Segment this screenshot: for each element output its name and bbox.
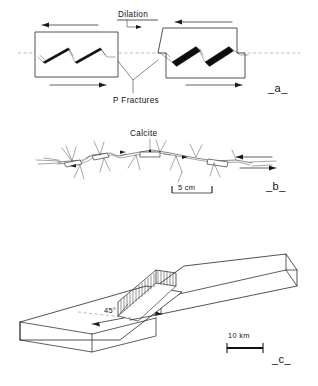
panel-b-scale-bar: 5 cm <box>172 183 212 193</box>
far-slab <box>148 254 297 314</box>
p-fractures-leader-v <box>118 60 158 80</box>
angle-label: 45° <box>104 306 116 315</box>
calcite-annotation: Calcite <box>130 129 158 152</box>
left-box-top-arrow <box>42 23 98 28</box>
right-shear-box-outline <box>158 28 245 78</box>
shear-couple-top-head <box>236 155 243 160</box>
calcite-leader-dot <box>149 150 151 152</box>
right-box-top-arrow-head <box>175 20 182 25</box>
splay-set-3 <box>94 141 104 155</box>
panel-a-left-box <box>35 23 118 88</box>
panel-a-right-box <box>158 20 248 88</box>
calcite-jog-4 <box>207 159 228 167</box>
right-box-top-arrow <box>175 20 232 25</box>
splay-set-1 <box>62 146 76 161</box>
fault-tail-4 <box>250 161 276 162</box>
left-box-top-arrow-head <box>42 23 49 28</box>
left-box-bottom-arrow <box>50 83 106 88</box>
figure-root: Dilation P Fractures _a_ <box>0 0 318 386</box>
splay-set-4 <box>100 158 110 172</box>
fault-tail-3 <box>44 158 58 160</box>
panel-b-scale-label: 5 cm <box>178 183 195 192</box>
panel-a-label: _a_ <box>267 82 288 94</box>
dilation-annotation: Dilation <box>117 10 158 29</box>
splay-set-7 <box>170 156 182 182</box>
panel-c: 45° 10 km _c_ <box>20 254 297 365</box>
left-shear-box-outline <box>35 32 118 77</box>
panel-b-label: _b_ <box>265 180 286 192</box>
slip-tick-2 <box>120 154 126 156</box>
p-fractures-label: P Fractures <box>113 96 159 105</box>
panel-b: Calcite 5 cm _b_ <box>36 129 286 193</box>
splay-set-5 <box>128 155 140 170</box>
fault-tail-1 <box>36 160 60 161</box>
shear-couple-bottom-head <box>269 166 276 171</box>
panel-c-scale-label: 10 km <box>228 331 250 340</box>
trace-arrow-1 <box>120 151 126 155</box>
p-fractures-annotation: P Fractures <box>113 60 159 105</box>
splay-set-10 <box>232 150 236 160</box>
splay-set-8 <box>190 144 202 157</box>
calcite-jog-3 <box>140 152 160 157</box>
splay-set-6 <box>156 140 166 152</box>
dilation-label: Dilation <box>118 10 148 19</box>
dilation-arrow-head <box>136 25 142 29</box>
panel-c-scale-bar: 10 km <box>227 331 263 353</box>
left-box-bottom-arrow-head <box>99 83 106 88</box>
right-box-bottom-arrow-head <box>235 83 242 88</box>
panel-b-shear-couple <box>236 155 276 171</box>
calcite-label: Calcite <box>130 129 158 138</box>
geological-figure: Dilation P Fractures _a_ <box>0 0 318 386</box>
panel-c-label: _c_ <box>271 353 292 365</box>
panel-a: Dilation P Fractures _a_ <box>18 10 300 105</box>
right-box-bottom-arrow <box>186 83 242 88</box>
